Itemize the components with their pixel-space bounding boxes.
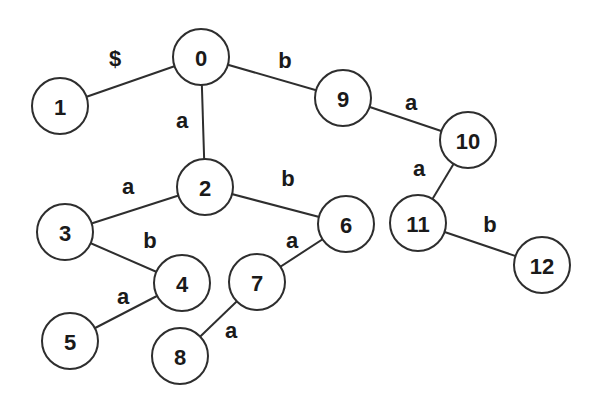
node-0: 0 xyxy=(173,29,229,85)
node-5: 5 xyxy=(42,313,98,369)
edge-label-4-5: a xyxy=(117,284,130,309)
edge-label-6-7: a xyxy=(286,228,299,253)
node-label: 9 xyxy=(337,87,349,112)
node-9: 9 xyxy=(315,70,371,126)
node-label: 2 xyxy=(199,176,211,201)
node-label: 8 xyxy=(174,345,186,370)
node-4: 4 xyxy=(154,255,210,311)
node-12: 12 xyxy=(514,237,570,293)
edge-label-3-4: b xyxy=(143,228,156,253)
edge-label-0-2: a xyxy=(176,108,189,133)
edge-label-2-3: a xyxy=(122,174,135,199)
node-11: 11 xyxy=(390,195,446,251)
node-label: 4 xyxy=(176,272,189,297)
node-1: 1 xyxy=(32,78,88,134)
edge-label-7-8: a xyxy=(225,318,238,343)
node-label: 3 xyxy=(59,221,71,246)
edges-layer xyxy=(60,57,542,356)
node-label: 7 xyxy=(251,271,263,296)
node-6: 6 xyxy=(318,196,374,252)
node-label: 6 xyxy=(340,213,352,238)
node-10: 10 xyxy=(440,112,496,168)
node-2: 2 xyxy=(177,159,233,215)
nodes-layer: 0123456789101112 xyxy=(32,29,570,384)
trie-diagram: 0123456789101112 $ababbaaaaab xyxy=(0,0,604,404)
node-label: 0 xyxy=(195,46,207,71)
node-label: 5 xyxy=(64,330,76,355)
node-8: 8 xyxy=(152,328,208,384)
edge-label-11-12: b xyxy=(483,212,496,237)
edge-label-0-9: b xyxy=(278,48,291,73)
edge-label-0-1: $ xyxy=(109,46,121,71)
edge-label-2-6: b xyxy=(281,166,294,191)
node-7: 7 xyxy=(229,254,285,310)
node-label: 12 xyxy=(530,254,554,279)
edge-label-9-10: a xyxy=(405,90,418,115)
node-label: 11 xyxy=(406,212,429,237)
node-3: 3 xyxy=(37,204,93,260)
edge-label-10-11: a xyxy=(413,156,426,181)
node-label: 1 xyxy=(54,95,66,120)
node-label: 10 xyxy=(456,129,480,154)
